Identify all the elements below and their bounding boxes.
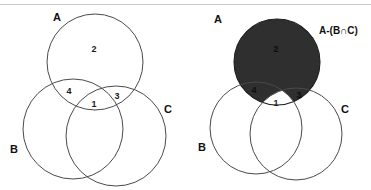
left-region-2: 2 — [91, 44, 96, 54]
venn-diagram-canvas: A B C 2 4 3 1 — [0, 0, 371, 190]
left-venn-group: A B C 2 4 3 1 — [10, 11, 172, 186]
venn-figure: A B C 2 4 3 1 — [0, 0, 371, 190]
left-set-label-c: C — [164, 103, 172, 115]
left-set-label-b: B — [10, 143, 18, 155]
left-region-1: 1 — [91, 99, 96, 109]
right-region-1: 1 — [273, 98, 278, 108]
left-set-label-a: A — [53, 11, 61, 23]
right-set-label-b: B — [198, 141, 206, 153]
right-set-label-a: A — [214, 13, 222, 25]
right-region-3: 3 — [296, 90, 301, 100]
left-circle-b — [23, 79, 123, 179]
right-region-2: 2 — [273, 44, 278, 54]
left-circle-a — [47, 14, 143, 110]
right-set-label-c: C — [341, 103, 349, 115]
left-region-3: 3 — [114, 91, 119, 101]
right-venn-group: A B C A-(B∩C) 2 4 3 1 — [198, 0, 358, 190]
right-expression-label: A-(B∩C) — [319, 25, 358, 36]
right-region-4: 4 — [251, 85, 256, 95]
left-region-4: 4 — [66, 86, 71, 96]
